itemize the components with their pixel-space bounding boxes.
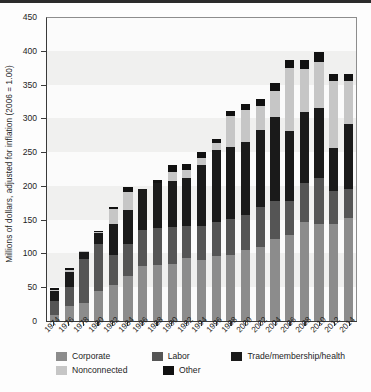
- bar-segment: [226, 219, 235, 255]
- bar-segment: [270, 91, 279, 117]
- bar-segment: [314, 178, 323, 224]
- bar-segment: [138, 230, 147, 266]
- y-tick-label: 150: [23, 215, 37, 225]
- legend-item-nonconnected: Nonconnected: [56, 365, 152, 375]
- bar-1990: [168, 165, 177, 321]
- bar-1982: [109, 207, 118, 321]
- bar-segment: [182, 178, 191, 225]
- bar-1992: [182, 164, 191, 321]
- bar-segment: [197, 158, 206, 165]
- bar-segment: [270, 239, 279, 321]
- bar-segment: [212, 222, 221, 256]
- bar-2006: [285, 60, 294, 321]
- chart-figure: Millions of dollars, adjusted for inflat…: [0, 0, 371, 392]
- bar-2008: [300, 60, 309, 321]
- bar-segment: [256, 130, 265, 207]
- bar-segment: [270, 117, 279, 201]
- bar-1986: [138, 189, 147, 321]
- bar-segment: [300, 222, 309, 321]
- bar-segment: [79, 252, 88, 259]
- bar-segment: [285, 201, 294, 235]
- legend-item-trade-membership-health: Trade/membership/health: [231, 351, 345, 361]
- bar-segment: [65, 287, 74, 306]
- bar-segment: [123, 210, 132, 244]
- bar-segment: [226, 147, 235, 219]
- bar-segment: [153, 265, 162, 321]
- bar-segment: [241, 250, 250, 321]
- bar-2000: [241, 104, 250, 321]
- legend-row-2: NonconnectedOther: [56, 365, 356, 375]
- bar-segment: [109, 255, 118, 285]
- chart-legend: CorporateLaborTrade/membership/health No…: [56, 351, 356, 379]
- y-axis: 050100150200250300350400450: [0, 17, 46, 321]
- bar-segment: [168, 264, 177, 321]
- page-top-rule: [0, 0, 371, 3]
- bar-segment: [123, 192, 132, 210]
- bar-segment: [329, 191, 338, 225]
- legend-item-other: Other: [163, 365, 201, 375]
- y-tick-label: 100: [23, 248, 37, 258]
- bar-segment: [285, 235, 294, 321]
- bar-segment: [138, 189, 147, 230]
- bar-segment: [123, 244, 132, 276]
- y-tick-label: 0: [32, 316, 37, 326]
- plot-area: [46, 17, 357, 321]
- bar-segment: [329, 74, 338, 81]
- bar-segment: [153, 183, 162, 228]
- bar-segment: [285, 60, 294, 67]
- y-tick-label: 200: [23, 181, 37, 191]
- bar-segment: [344, 81, 353, 124]
- bar-segment: [329, 81, 338, 148]
- bar-segment: [94, 244, 103, 291]
- bar-1996: [212, 139, 221, 321]
- bar-segment: [344, 124, 353, 190]
- legend-label: Corporate: [72, 351, 110, 361]
- y-tick-label: 250: [23, 147, 37, 157]
- y-tick-label: 400: [23, 46, 37, 56]
- bar-segment: [300, 69, 309, 112]
- bar-1980: [94, 231, 103, 321]
- bar-segment: [123, 276, 132, 321]
- bar-segment: [197, 165, 206, 226]
- bar-2004: [270, 83, 279, 321]
- legend-swatch: [163, 366, 174, 375]
- bar-segment: [270, 83, 279, 91]
- legend-swatch: [231, 352, 242, 361]
- bar-segment: [314, 224, 323, 321]
- bar-segment: [300, 183, 309, 223]
- legend-swatch: [56, 366, 67, 375]
- bar-segment: [285, 131, 294, 201]
- bar-1976: [65, 268, 74, 321]
- bar-segment: [197, 260, 206, 321]
- bar-segment: [300, 60, 309, 69]
- bar-segment: [314, 52, 323, 61]
- bar-segment: [212, 143, 221, 150]
- bar-segment: [94, 233, 103, 244]
- bar-1998: [226, 111, 235, 321]
- bar-segment: [314, 108, 323, 179]
- y-tick-label: 450: [23, 12, 37, 22]
- bar-2010: [314, 52, 323, 321]
- legend-row-1: CorporateLaborTrade/membership/health: [56, 351, 356, 361]
- legend-label: Labor: [168, 351, 190, 361]
- bar-segment: [168, 181, 177, 228]
- legend-label: Nonconnected: [72, 365, 127, 375]
- legend-item-labor: Labor: [152, 351, 221, 361]
- legend-label: Other: [179, 365, 201, 375]
- bar-segment: [226, 255, 235, 321]
- bar-segment: [241, 215, 250, 250]
- bar-segment: [256, 99, 265, 106]
- bar-segment: [109, 224, 118, 255]
- bar-segment: [241, 110, 250, 142]
- y-tick-label: 350: [23, 80, 37, 90]
- bar-segment: [285, 68, 294, 132]
- bar-segment: [270, 201, 279, 238]
- bar-segment: [168, 165, 177, 172]
- bar-segment: [344, 218, 353, 321]
- bar-segment: [241, 142, 250, 215]
- bar-segment: [168, 227, 177, 263]
- bar-segment: [256, 247, 265, 321]
- bar-segment: [329, 148, 338, 191]
- bar-segment: [314, 62, 323, 108]
- bar-segment: [344, 74, 353, 81]
